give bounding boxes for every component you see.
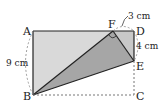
label-b: B bbox=[23, 90, 31, 103]
label-a: A bbox=[22, 25, 32, 38]
label-d: D bbox=[136, 25, 145, 38]
label-f: F bbox=[108, 18, 116, 31]
measure-ab: 9 cm bbox=[6, 58, 29, 68]
geometry-figure: A B C D E F 9 cm 3 cm 4 cm bbox=[0, 0, 166, 106]
arc-fd bbox=[113, 27, 134, 32]
measure-fd: 3 cm bbox=[128, 11, 151, 21]
label-e: E bbox=[136, 60, 144, 73]
label-c: C bbox=[136, 90, 144, 103]
measure-de: 4 cm bbox=[136, 41, 159, 51]
